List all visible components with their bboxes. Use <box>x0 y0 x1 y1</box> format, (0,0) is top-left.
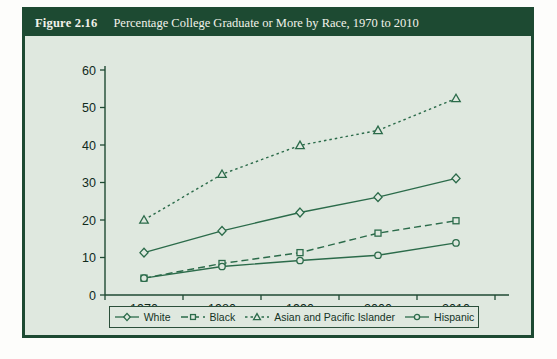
figure-title: Percentage College Graduate or More by R… <box>113 16 418 31</box>
y-axis-tick-label: 0 <box>89 289 96 303</box>
legend-entry-asian-and-pacific-islander[interactable]: Asian and Pacific Islander <box>244 310 395 324</box>
y-axis-tick-label: 50 <box>82 101 96 115</box>
data-point-marker-triangle <box>140 216 149 223</box>
figure-title-bar: Figure 2.16 Percentage College Graduate … <box>25 10 531 36</box>
series-asian-and-pacific-islander <box>140 94 461 223</box>
legend-entry-hispanic[interactable]: Hispanic <box>404 310 474 324</box>
legend-marker-circle-icon <box>404 310 430 324</box>
data-point-marker-circle <box>414 314 419 319</box>
legend-label: Hispanic <box>434 311 474 323</box>
legend-marker-square-icon <box>180 310 206 324</box>
chart-area: 010203040506019701980199020002010 <box>25 36 531 335</box>
legend-label: Asian and Pacific Islander <box>274 311 395 323</box>
series-white <box>140 174 460 257</box>
data-point-marker-circle <box>297 257 303 263</box>
y-axis-tick-label: 60 <box>82 64 96 78</box>
data-point-marker-diamond <box>452 174 460 183</box>
series-line <box>144 99 456 221</box>
data-point-marker-diamond <box>123 313 130 320</box>
chart-legend: WhiteBlackAsian and Pacific IslanderHisp… <box>109 306 479 328</box>
data-point-marker-square <box>297 250 303 256</box>
data-point-marker-diamond <box>296 208 304 217</box>
bottom-caption-strip <box>0 345 557 359</box>
y-axis-tick-label: 20 <box>82 214 96 228</box>
legend-marker-diamond-icon <box>114 310 140 324</box>
data-point-marker-circle <box>375 252 381 258</box>
legend-entry-white[interactable]: White <box>114 310 171 324</box>
figure-number: Figure 2.16 <box>35 16 97 31</box>
data-point-marker-circle <box>141 275 147 281</box>
data-point-marker-triangle <box>254 314 261 320</box>
y-axis-tick-label: 40 <box>82 139 96 153</box>
data-point-marker-square <box>375 230 381 236</box>
legend-entry-black[interactable]: Black <box>180 310 236 324</box>
figure-root: Figure 2.16 Percentage College Graduate … <box>0 0 557 359</box>
data-point-marker-circle <box>453 240 459 246</box>
data-point-marker-triangle <box>452 94 461 101</box>
data-point-marker-circle <box>219 263 225 269</box>
data-point-marker-square <box>453 218 459 224</box>
data-point-marker-triangle <box>374 126 383 133</box>
legend-label: White <box>144 311 171 323</box>
y-axis-tick-label: 10 <box>82 251 96 265</box>
data-point-marker-square <box>190 315 195 320</box>
legend-marker-triangle-icon <box>244 310 270 324</box>
data-point-marker-diamond <box>140 248 148 257</box>
data-point-marker-triangle <box>218 170 227 177</box>
legend-label: Black <box>210 311 236 323</box>
data-point-marker-diamond <box>218 226 226 235</box>
line-chart: 010203040506019701980199020002010 <box>25 36 531 335</box>
data-point-marker-diamond <box>374 193 382 202</box>
series-hispanic <box>141 240 459 282</box>
figure-panel: Figure 2.16 Percentage College Graduate … <box>22 7 534 338</box>
y-axis-tick-label: 30 <box>82 176 96 190</box>
